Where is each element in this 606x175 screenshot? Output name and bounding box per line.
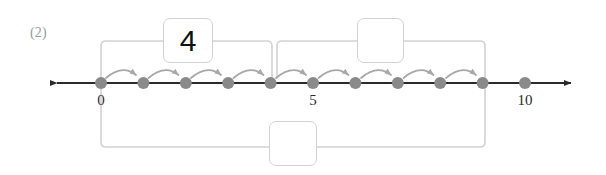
answer-box-top-right[interactable] (357, 18, 404, 63)
hop-arc (149, 70, 179, 78)
hop-arc (276, 70, 306, 78)
hop-arc (361, 70, 391, 78)
hop-arc (191, 70, 221, 78)
number-line-dot (349, 77, 361, 89)
tick-label-5: 5 (309, 92, 317, 109)
number-line-dot (180, 77, 192, 89)
number-line-dot (137, 77, 149, 89)
number-line-dot (519, 77, 531, 89)
answer-box-top-left[interactable]: 4 (163, 18, 213, 63)
number-line-dot (434, 77, 446, 89)
number-line-dot (392, 77, 404, 89)
hop-arc (319, 70, 349, 78)
hop-arc-group (106, 70, 476, 78)
number-line-dot (477, 77, 489, 89)
number-line-dot (95, 77, 107, 89)
hop-arc (446, 70, 476, 78)
number-line-dot (265, 77, 277, 89)
worksheet-number-line-problem: (2) (0, 0, 606, 175)
hop-arc (106, 70, 136, 78)
hop-arc (234, 70, 264, 78)
number-line-dot (222, 77, 234, 89)
tick-label-0: 0 (97, 92, 105, 109)
number-line-dot (307, 77, 319, 89)
answer-box-bottom-total[interactable] (269, 121, 317, 166)
tick-label-10: 10 (518, 92, 533, 109)
hop-arc (404, 70, 434, 78)
